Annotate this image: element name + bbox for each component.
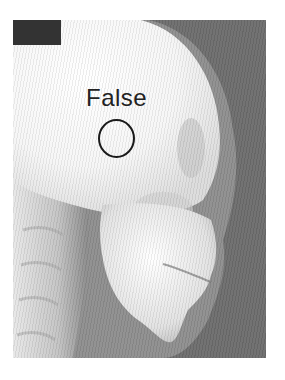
- xray-image: [13, 20, 266, 358]
- annotation-label: False: [86, 86, 147, 110]
- annotation-circle: [98, 119, 135, 158]
- redaction-marker: [13, 20, 61, 45]
- skull-illustration: [13, 20, 266, 358]
